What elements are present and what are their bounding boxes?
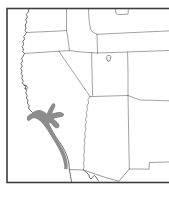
range-map-figure: Western United States Shaded distributio… [0,0,169,197]
map-canvas [0,0,169,197]
